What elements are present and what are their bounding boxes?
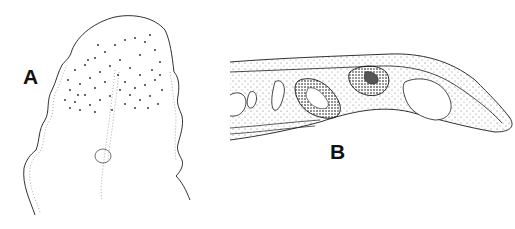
panel-b: B — [220, 50, 515, 220]
panel-a: A — [0, 0, 220, 229]
panel-a-drawing — [0, 0, 220, 229]
figure: A — [0, 0, 515, 229]
panel-b-drawing — [220, 50, 515, 220]
panel-a-stipple — [64, 34, 163, 113]
